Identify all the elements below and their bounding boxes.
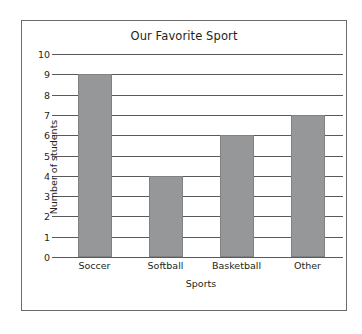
y-axis-title: Number of students [48, 92, 59, 242]
y-tick-label-5: 5 [24, 150, 50, 161]
y-tick-label-8: 8 [24, 89, 50, 100]
chart-figure: Our Favorite Sport 109876543210 SoccerSo… [21, 20, 347, 311]
x-tick-label-softball: Softball [148, 260, 184, 271]
bar-other [291, 115, 325, 257]
x-axis-title: Sports [59, 278, 343, 289]
y-tick-label-3: 3 [24, 191, 50, 202]
x-tick-label-soccer: Soccer [78, 260, 110, 271]
bar-soccer [78, 74, 112, 257]
y-tick-label-9: 9 [24, 69, 50, 80]
y-tick-label-0: 0 [24, 252, 50, 263]
bar-softball [149, 176, 183, 257]
y-tick-label-2: 2 [24, 211, 50, 222]
x-tick-label-other: Other [294, 260, 321, 271]
plot-area: 109876543210 SoccerSoftballBasketballOth… [22, 21, 348, 312]
y-tick-label-7: 7 [24, 109, 50, 120]
y-tick-label-6: 6 [24, 130, 50, 141]
bar-basketball [220, 135, 254, 257]
y-tick-label-10: 10 [24, 49, 50, 60]
x-tick-label-basketball: Basketball [212, 260, 261, 271]
y-tick-label-4: 4 [24, 170, 50, 181]
y-tick-label-1: 1 [24, 231, 50, 242]
